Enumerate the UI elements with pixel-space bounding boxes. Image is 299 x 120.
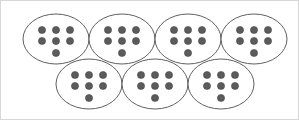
counter-dot	[85, 71, 92, 78]
counter-dot	[137, 71, 144, 78]
counter-dot	[165, 82, 172, 89]
counter-dot	[66, 26, 73, 33]
counter-dot	[236, 37, 243, 44]
counter-dot	[132, 26, 139, 33]
diagram-canvas	[0, 0, 299, 120]
counter-dot	[104, 37, 111, 44]
counter-dot	[198, 37, 205, 44]
counter-dot	[99, 71, 106, 78]
counter-dot	[85, 82, 92, 89]
counter-dot	[203, 82, 210, 89]
counter-dot	[250, 37, 257, 44]
counter-dot	[118, 26, 125, 33]
grouped-dots-diagram	[1, 1, 299, 120]
counter-dot	[71, 82, 78, 89]
counter-dot	[85, 94, 92, 101]
counter-dot	[38, 37, 45, 44]
dot-group	[188, 59, 254, 109]
counter-dot	[151, 71, 158, 78]
counter-dot	[264, 37, 271, 44]
counter-dot	[52, 37, 59, 44]
counter-dot	[170, 26, 177, 33]
counter-dot	[217, 71, 224, 78]
dot-group	[23, 14, 89, 64]
dot-group	[56, 59, 122, 109]
counter-dot	[66, 37, 73, 44]
counter-dot	[137, 82, 144, 89]
counter-dot	[118, 37, 125, 44]
counter-dot	[231, 71, 238, 78]
groups-layer	[23, 14, 287, 109]
dot-group	[122, 59, 188, 109]
counter-dot	[52, 49, 59, 56]
counter-dot	[217, 82, 224, 89]
counter-dot	[184, 49, 191, 56]
dot-group	[155, 14, 221, 64]
counter-dot	[132, 37, 139, 44]
counter-dot	[151, 94, 158, 101]
counter-dot	[184, 26, 191, 33]
counter-dot	[250, 49, 257, 56]
counter-dot	[198, 26, 205, 33]
counter-dot	[104, 26, 111, 33]
counter-dot	[165, 71, 172, 78]
counter-dot	[184, 37, 191, 44]
group-row-bottom-row	[56, 59, 254, 109]
counter-dot	[236, 26, 243, 33]
counter-dot	[217, 94, 224, 101]
counter-dot	[170, 37, 177, 44]
counter-dot	[118, 49, 125, 56]
dot-group	[89, 14, 155, 64]
counter-dot	[250, 26, 257, 33]
counter-dot	[71, 71, 78, 78]
counter-dot	[231, 82, 238, 89]
dot-group	[221, 14, 287, 64]
group-row-top-row	[23, 14, 287, 64]
counter-dot	[38, 26, 45, 33]
counter-dot	[151, 82, 158, 89]
counter-dot	[203, 71, 210, 78]
counter-dot	[264, 26, 271, 33]
counter-dot	[52, 26, 59, 33]
counter-dot	[99, 82, 106, 89]
